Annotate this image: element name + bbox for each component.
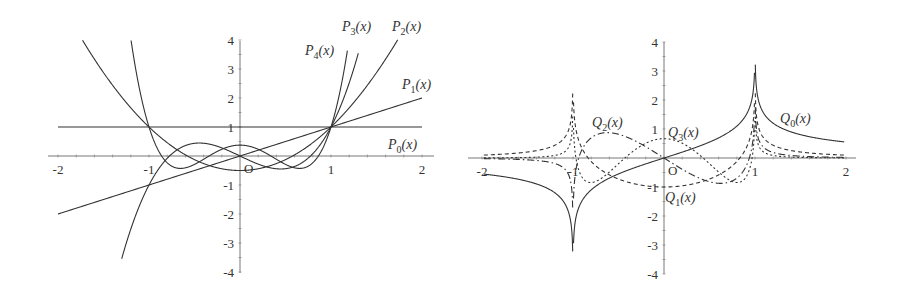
y-tick-label: 3: [228, 62, 235, 77]
y-tick-label: 1: [652, 122, 659, 137]
x-tick-label: -1: [144, 162, 155, 177]
y-tick-label: -3: [223, 236, 234, 251]
label-p4: P4(x): [304, 43, 334, 61]
legendre-p-plot: -2-1124321-1-2-3-4O P0(x)P1(x)P2(x)P3(x)…: [48, 19, 434, 280]
origin-label: O: [244, 161, 253, 176]
label-q1: Q1(x): [665, 190, 696, 208]
figure: -2-1124321-1-2-3-4O P0(x)P1(x)P2(x)P3(x)…: [0, 0, 898, 303]
label-p1: P1(x): [401, 77, 431, 95]
x-tick-label: 1: [328, 162, 335, 177]
y-tick-label: 2: [652, 93, 659, 108]
label-q2: Q2(x): [592, 115, 623, 133]
x-tick-label: -2: [477, 164, 488, 179]
legendre-q-plot: -2-1124321-1-2-3-4O Q0(x)Q1(x)Q2(x)Q3(x): [468, 35, 856, 282]
y-tick-label: -4: [647, 267, 658, 282]
label-p3: P3(x): [341, 19, 371, 37]
x-tick-label: 1: [752, 164, 759, 179]
x-tick-label: -2: [53, 162, 64, 177]
right-curve-labels: Q0(x)Q1(x)Q2(x)Q3(x): [592, 111, 811, 208]
label-q3: Q3(x): [668, 125, 699, 143]
y-tick-label: -1: [223, 178, 234, 193]
label-p0: P0(x): [387, 137, 417, 155]
x-tick-label: 2: [419, 162, 426, 177]
y-tick-label: 3: [652, 64, 659, 79]
y-tick-label: -2: [647, 209, 658, 224]
y-tick-label: -1: [647, 180, 658, 195]
label-q0: Q0(x): [780, 111, 811, 129]
label-p2: P2(x): [391, 19, 421, 37]
origin-label: O: [668, 163, 677, 178]
y-tick-label: 2: [228, 91, 235, 106]
y-tick-label: -4: [223, 265, 234, 280]
x-tick-label: 2: [843, 164, 850, 179]
y-tick-label: 4: [228, 33, 235, 48]
y-tick-label: -2: [223, 207, 234, 222]
y-tick-label: -3: [647, 238, 658, 253]
y-tick-label: 4: [652, 35, 659, 50]
